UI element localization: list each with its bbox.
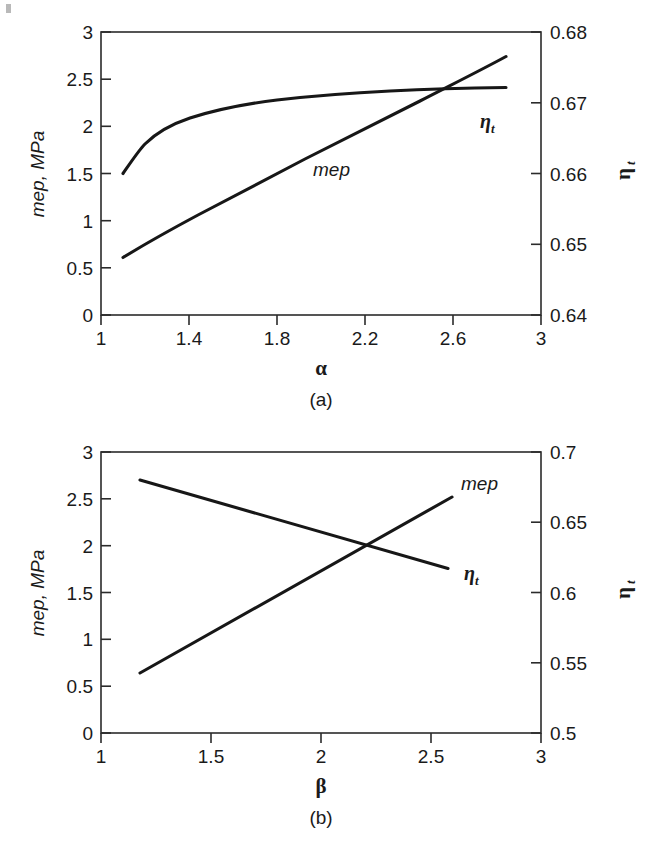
series-label-a-eta-sub: t (491, 121, 495, 136)
y2-tick-label-a-1: 0.65 (550, 234, 587, 255)
plot-frame-b (101, 452, 541, 733)
y2-tick-label-a-0: 0.64 (550, 305, 587, 326)
x-tick-label-a-2: 1.8 (264, 328, 290, 349)
y-tick-label-b-1: 0.5 (67, 676, 93, 697)
y2-tick-label-b-1: 0.55 (550, 653, 587, 674)
x-axis-ticks-b (101, 733, 541, 743)
y2-tick-label-a-4: 0.68 (550, 22, 587, 43)
y-tick-label-a-6: 3 (82, 22, 93, 43)
y2-axis-title-a: η t (611, 161, 638, 180)
series-label-a-eta-symbol: η (480, 110, 491, 133)
y2-axis-title-a-eta: η (611, 168, 635, 180)
y-tick-label-b-3: 1.5 (67, 583, 93, 604)
x-tick-label-b-3: 2.5 (418, 746, 444, 767)
series-label-b-eta-symbol: η (464, 562, 475, 585)
y-tick-label-a-3: 1.5 (67, 164, 93, 185)
y2-axis-title-a-sub: t (623, 161, 638, 165)
y-tick-label-a-0: 0 (82, 305, 93, 326)
y-axis-right-ticks-a (531, 32, 541, 315)
scan-artifact (6, 4, 11, 13)
x-tick-label-b-1: 1.5 (198, 746, 224, 767)
y-tick-label-b-4: 2 (82, 536, 93, 557)
figure-root: 0 0.5 1 1.5 2 2.5 3 0.64 0.65 0.66 0.67 … (0, 0, 655, 847)
chart-b-svg: 0 0.5 1 1.5 2 2.5 3 0.5 0.55 0.6 0.65 0.… (0, 424, 655, 847)
y-tick-label-b-0: 0 (82, 723, 93, 744)
chart-panel-b: 0 0.5 1 1.5 2 2.5 3 0.5 0.55 0.6 0.65 0.… (0, 424, 655, 847)
series-curve-a-mep (123, 57, 506, 258)
y2-axis-title-b-eta: η (611, 587, 635, 599)
y2-tick-label-a-3: 0.67 (550, 93, 587, 114)
series-label-a-eta: η t (480, 110, 495, 136)
y2-axis-title-b-sub: t (623, 580, 638, 584)
x-axis-title-b: β (315, 774, 326, 798)
y-tick-label-a-4: 2 (82, 116, 93, 137)
x-tick-label-a-4: 2.6 (440, 328, 466, 349)
y-tick-label-b-2: 1 (82, 629, 93, 650)
y-axis-left-ticks-a (101, 32, 111, 315)
y-tick-label-b-6: 3 (82, 442, 93, 463)
panel-caption-a: (a) (309, 389, 332, 410)
series-label-b-eta-sub: t (475, 573, 479, 588)
series-label-b-eta: η t (464, 562, 479, 588)
y2-axis-title-b: η t (611, 580, 638, 599)
series-label-a-mep: mep (313, 159, 350, 180)
panel-caption-b: (b) (309, 807, 332, 828)
y-tick-label-a-5: 2.5 (67, 69, 93, 90)
y-axis-title-b: mep, MPa (27, 550, 48, 637)
y-tick-label-a-2: 1 (82, 211, 93, 232)
y-tick-label-b-5: 2.5 (67, 489, 93, 510)
x-tick-label-b-0: 1 (96, 746, 107, 767)
x-axis-title-a: α (315, 356, 327, 380)
x-tick-label-b-4: 3 (536, 746, 547, 767)
x-tick-label-a-0: 1 (96, 328, 107, 349)
x-tick-label-b-2: 2 (316, 746, 327, 767)
chart-panel-a: 0 0.5 1 1.5 2 2.5 3 0.64 0.65 0.66 0.67 … (0, 0, 655, 424)
y2-tick-label-a-2: 0.66 (550, 164, 587, 185)
series-label-b-mep: mep (461, 473, 498, 494)
y-axis-title-a: mep, MPa (27, 131, 48, 218)
y2-tick-label-b-2: 0.6 (550, 583, 576, 604)
y2-tick-label-b-4: 0.7 (550, 442, 576, 463)
y-axis-left-ticks-b (101, 452, 111, 733)
x-tick-label-a-5: 3 (536, 328, 547, 349)
y-tick-label-a-1: 0.5 (67, 258, 93, 279)
x-axis-ticks-a (101, 315, 541, 325)
chart-a-svg: 0 0.5 1 1.5 2 2.5 3 0.64 0.65 0.66 0.67 … (0, 0, 655, 424)
y2-tick-label-b-0: 0.5 (550, 723, 576, 744)
x-tick-label-a-1: 1.4 (176, 328, 203, 349)
y-axis-right-ticks-b (531, 452, 541, 733)
y2-tick-label-b-3: 0.65 (550, 512, 587, 533)
x-tick-label-a-3: 2.2 (352, 328, 378, 349)
